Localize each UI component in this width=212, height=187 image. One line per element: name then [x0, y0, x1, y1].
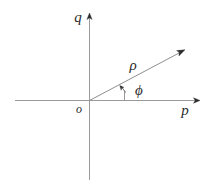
- origin-label: o: [76, 102, 82, 116]
- q-axis: [87, 13, 92, 180]
- polar-coordinate-figure: q p o ρ ϕ: [0, 0, 212, 187]
- p-axis: [15, 98, 200, 103]
- q-axis-label: q: [74, 9, 82, 25]
- phi-angle-arc: [120, 86, 126, 93]
- rho-vector-arrowhead: [177, 50, 185, 56]
- rho-label: ρ: [128, 57, 136, 73]
- phi-label: ϕ: [135, 82, 143, 98]
- figure-canvas: q p o ρ ϕ: [0, 0, 212, 187]
- p-axis-label: p: [180, 102, 189, 118]
